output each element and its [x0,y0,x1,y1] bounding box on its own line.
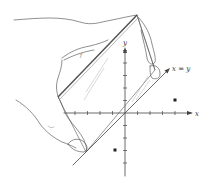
y-axis: y [122,39,128,176]
y-axis-arrow-icon [123,47,127,53]
point-b [114,149,117,152]
y-axis-label: y [122,39,128,47]
point-a [174,99,177,102]
reflection-diagram: x y x = y [0,0,209,183]
glass-highlights [84,58,150,102]
upper-hand-illustration [14,15,160,79]
line-label: x = y [172,65,191,73]
line-x-equals-y: x = y [73,65,191,165]
x-axis-arrow-icon [187,111,193,115]
x-axis: x [64,110,199,118]
lower-hand-illustration [16,60,87,152]
x-axis-label: x [195,110,199,118]
